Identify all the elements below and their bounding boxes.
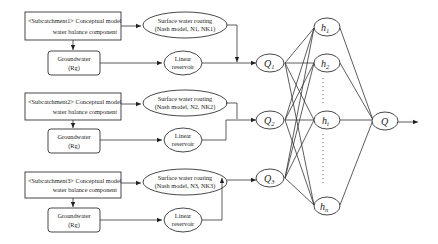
- hydrological-ann-diagram: <Subcatchment1> Conceptual model water b…: [0, 0, 438, 244]
- model-label-1b: water balance component: [53, 28, 118, 35]
- model-label-3a: <Subcatchment3> Conceptual model: [28, 177, 122, 184]
- input-node-q2: Q2: [256, 111, 284, 129]
- groundwater-label-2a: Groundwater: [57, 133, 91, 140]
- model-label-3b: water balance component: [53, 186, 118, 193]
- output-node-q: Q: [372, 112, 398, 130]
- input-node-q3: Q3: [256, 169, 284, 187]
- routing-label-2b: (Nash model, N2, NK2): [155, 103, 216, 111]
- subcatchment-block-2: <Subcatchment2> Conceptual model water b…: [25, 90, 256, 153]
- model-label-2a: <Subcatchment2> Conceptual model: [28, 98, 122, 105]
- groundwater-label-1b: (Rg): [68, 64, 80, 72]
- arrow-routing-to-sum-1: [227, 25, 237, 62]
- hidden-node-h2: h2: [314, 54, 340, 72]
- input-node-q1: Q1: [256, 54, 284, 72]
- conceptual-model-box-3: [25, 172, 121, 198]
- subcatchment-block-1: <Subcatchment1> Conceptual model water b…: [25, 12, 256, 75]
- routing-label-3b: (Nash model, N3, NK3): [155, 182, 216, 190]
- model-label-1a: <Subcatchment1> Conceptual model: [28, 17, 122, 24]
- svg-text:Q: Q: [381, 116, 389, 127]
- hidden-node-hi: hi: [314, 111, 340, 129]
- groundwater-label-3a: Groundwater: [57, 212, 91, 219]
- subcatchment-block-3: <Subcatchment3> Conceptual model water b…: [25, 169, 256, 232]
- reservoir-label-1b: reservoir: [172, 63, 195, 70]
- routing-label-3a: Surface water routing: [158, 174, 213, 181]
- hidden-node-hn: hn: [314, 197, 340, 215]
- reservoir-label-1a: Linear: [175, 55, 192, 62]
- groundwater-label-3b: (Rg): [68, 221, 80, 229]
- routing-label-1b: (Nash model, N1, NK1): [155, 25, 216, 33]
- reservoir-label-2a: Linear: [175, 132, 192, 139]
- routing-connector-2: [226, 103, 237, 119]
- reservoir-label-3b: reservoir: [172, 220, 195, 227]
- hidden-node-h1: h1: [314, 18, 340, 36]
- groundwater-label-2b: (Rg): [68, 142, 80, 150]
- groundwater-label-1a: Groundwater: [57, 55, 91, 62]
- routing-label-2a: Surface water routing: [158, 95, 213, 102]
- arrow-to-q2: [202, 120, 256, 140]
- model-label-2b: water balance component: [53, 108, 118, 115]
- reservoir-label-3a: Linear: [175, 212, 192, 219]
- routing-label-1a: Surface water routing: [158, 17, 213, 24]
- reservoir-label-2b: reservoir: [172, 140, 195, 147]
